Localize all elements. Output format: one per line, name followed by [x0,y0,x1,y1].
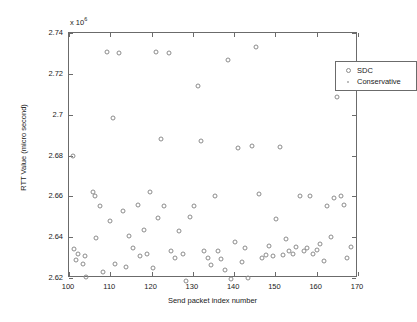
data-point [150,265,155,270]
data-point [148,190,153,195]
data-point [298,194,303,199]
data-point [219,256,224,261]
data-point [145,251,150,256]
data-point [205,255,210,260]
x-tick-mark [317,272,318,276]
x-tick-mark-top [358,33,359,37]
data-point [315,248,320,253]
data-point [105,50,110,55]
data-point [153,50,158,55]
data-point [141,228,146,233]
plot-area: SDC Conservative [68,32,357,277]
data-point [73,257,78,262]
data-point [213,194,218,199]
data-point [126,234,131,239]
data-point [348,245,353,250]
y-tick-label: 2.7 [30,109,63,118]
x-tick-mark [275,272,276,276]
data-point [304,246,309,251]
data-point [202,249,207,254]
x-tick-label: 140 [227,282,240,291]
data-point [215,249,220,254]
data-point [338,194,343,199]
data-point [267,244,272,249]
data-point [82,253,87,258]
data-point [117,51,122,56]
y-tick-mark-right [352,115,356,116]
x-tick-mark-top [317,33,318,37]
data-point [325,203,330,208]
data-point [308,194,313,199]
data-point [180,251,185,256]
data-point [199,139,204,144]
data-point [135,202,140,207]
x-tick-mark [234,272,235,276]
data-point [123,264,128,269]
data-point [328,235,333,240]
y-tick-mark-right [352,278,356,279]
data-point [159,137,164,142]
data-point [97,203,102,208]
y-tick-mark [69,196,73,197]
x-tick-label: 150 [268,282,281,291]
data-point [229,277,234,282]
legend-marker-sdc-icon [339,68,357,73]
data-point [222,267,227,272]
data-point [246,276,251,281]
data-point [83,274,88,279]
data-point [209,262,214,267]
y-axis-exponent-value: 6 [84,16,87,22]
x-tick-mark-top [110,33,111,37]
x-tick-label: 160 [309,282,322,291]
data-point [280,252,285,257]
y-tick-mark-right [352,196,356,197]
data-point [131,246,136,251]
x-tick-label: 120 [144,282,157,291]
y-axis-title: RTT Value (micro second) [19,63,28,233]
x-tick-mark [110,272,111,276]
data-point [195,84,200,89]
y-tick-mark [69,74,73,75]
x-tick-mark [193,272,194,276]
data-point [335,95,340,100]
legend-item-conservative: Conservative [339,76,412,87]
data-point [249,144,254,149]
x-tick-mark-top [152,33,153,37]
data-point [277,145,282,150]
data-point [138,253,143,258]
x-tick-mark-top [193,33,194,37]
chart-legend: SDC Conservative [335,61,417,91]
x-tick-label: 130 [186,282,199,291]
data-point [236,146,241,151]
x-tick-mark-top [234,33,235,37]
data-point [226,57,231,62]
data-point [166,51,171,56]
data-point [81,261,86,266]
y-tick-label: 2.66 [30,191,63,200]
data-point [76,251,81,256]
data-point [93,194,98,199]
y-axis-exponent-label: x 106 [70,16,87,27]
x-tick-label: 170 [351,282,364,291]
data-point [253,45,258,50]
data-point [176,229,181,234]
data-point [294,245,299,250]
data-point [239,259,244,264]
data-point [120,208,125,213]
y-axis-exponent-base: x 10 [70,18,84,27]
legend-marker-conservative-icon [339,81,357,83]
data-point [232,240,237,245]
data-point [270,253,275,258]
x-tick-mark [152,272,153,276]
x-axis-title: Send packet index number [68,296,357,305]
y-tick-mark [69,33,73,34]
y-tick-mark [69,237,73,238]
y-tick-mark-right [352,156,356,157]
data-point [284,237,289,242]
x-tick-mark [358,272,359,276]
data-point [291,251,296,256]
data-point [94,236,99,241]
y-tick-label: 2.64 [30,232,63,241]
data-point [192,203,197,208]
